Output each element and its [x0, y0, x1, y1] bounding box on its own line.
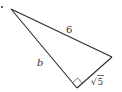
left-leg-edge	[11, 9, 77, 88]
radical-sign: √	[91, 77, 97, 87]
left-leg-label: b	[37, 57, 43, 68]
hypotenuse-label: 6	[66, 24, 72, 35]
right-angle-marker	[73, 78, 83, 83]
triangle-diagram: 6 b √ 5	[0, 0, 122, 92]
hypotenuse-edge	[11, 9, 112, 57]
bullet-dot	[1, 6, 3, 8]
short-leg-label: √ 5	[91, 76, 104, 88]
radicand: 5	[98, 77, 104, 87]
